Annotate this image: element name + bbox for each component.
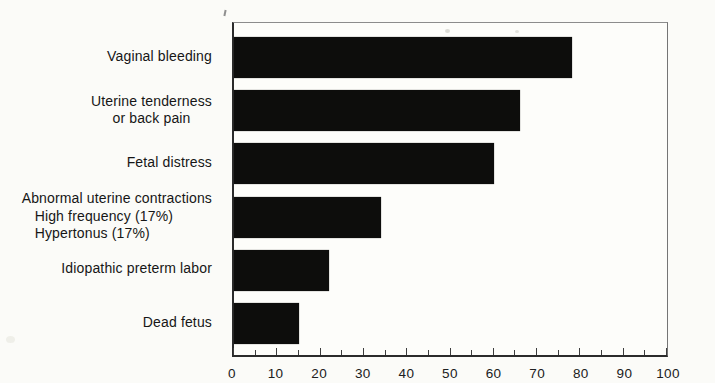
x-axis-tick-label: 20 [311, 366, 327, 381]
scanned-bar-chart-figure: Vaginal bleedingUterine tendernessor bac… [0, 0, 715, 383]
x-axis-tick-label: 50 [442, 366, 458, 381]
scan-artifact [445, 29, 450, 33]
x-axis-minor-tick [471, 350, 472, 355]
category-label-line: or back pain [91, 110, 212, 128]
scan-artifact [6, 336, 15, 343]
x-axis-minor-tick [428, 350, 429, 355]
x-axis-major-tick [450, 348, 451, 355]
bar [234, 250, 329, 291]
bar [234, 37, 572, 78]
category-label-line: Abnormal uterine contractions [22, 190, 212, 208]
x-axis-major-tick [493, 348, 494, 355]
x-axis-tick-label: 10 [268, 366, 284, 381]
x-axis-tick-label: 0 [228, 366, 236, 381]
bar [234, 90, 520, 131]
category-label-line: Hypertonus (17%) [22, 225, 212, 243]
category-label-line: High frequency (17%) [22, 207, 212, 225]
category-label: Uterine tendernessor back pain [91, 92, 212, 127]
x-axis-minor-tick [644, 350, 645, 355]
x-axis-major-tick [536, 348, 537, 355]
x-axis-tick-label: 30 [355, 366, 371, 381]
category-label-line: Uterine tenderness [91, 92, 212, 110]
category-label: Dead fetus [143, 314, 212, 332]
category-label: Idiopathic preterm labor [61, 261, 212, 279]
x-axis-major-tick [276, 348, 277, 355]
x-axis-major-tick [623, 348, 624, 355]
scan-artifact [223, 10, 226, 16]
category-label: Abnormal uterine contractionsHigh freque… [22, 190, 212, 243]
category-labels: Vaginal bleedingUterine tendernessor bac… [0, 22, 222, 357]
x-axis-minor-tick [558, 350, 559, 355]
bar [234, 303, 299, 344]
x-axis-major-tick [233, 348, 234, 355]
x-axis-tick-label: 80 [573, 366, 589, 381]
x-axis-tick-label: 90 [616, 366, 632, 381]
category-label-line: Fetal distress [127, 154, 212, 172]
x-axis-tick-label: 40 [398, 366, 414, 381]
x-axis-major-tick [320, 348, 321, 355]
x-axis-minor-tick [385, 350, 386, 355]
x-axis-minor-tick [514, 350, 515, 355]
bar [234, 197, 381, 238]
x-axis-minor-tick [298, 350, 299, 355]
x-axis-major-tick [579, 348, 580, 355]
x-axis-tick-label: 100 [656, 366, 680, 381]
x-axis-major-tick [363, 348, 364, 355]
category-label: Fetal distress [127, 154, 212, 172]
x-axis-minor-tick [601, 350, 602, 355]
category-label-line: Vaginal bleeding [107, 48, 212, 66]
x-axis-major-tick [666, 348, 667, 355]
x-axis-tick-label: 70 [529, 366, 545, 381]
x-axis-minor-tick [255, 350, 256, 355]
scan-artifact [515, 30, 519, 33]
x-axis-minor-tick [341, 350, 342, 355]
bar [234, 143, 494, 184]
category-label: Vaginal bleeding [107, 48, 212, 66]
category-label-line: Idiopathic preterm labor [61, 261, 212, 279]
x-axis-major-tick [406, 348, 407, 355]
category-label-line: Dead fetus [143, 314, 212, 332]
x-axis-tick-label: 60 [486, 366, 502, 381]
plot-area [232, 22, 668, 357]
